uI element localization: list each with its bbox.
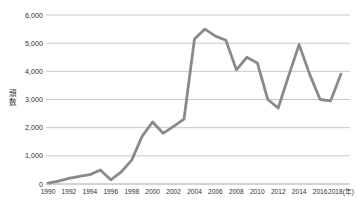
y-tick-label: 6,000 (25, 11, 43, 20)
line-chart: 頭数 01,0002,0003,0004,0005,0006,000199019… (0, 0, 357, 202)
x-tick-label: 2004 (187, 188, 202, 195)
y-tick-label: 2,000 (25, 123, 43, 132)
x-tick-label: 2000 (145, 188, 160, 195)
x-tick-label: 1998 (124, 188, 139, 195)
x-tick-label: 2008 (229, 188, 244, 195)
x-tick-label: 2010 (250, 188, 265, 195)
x-tick-label: 1990 (41, 188, 56, 195)
x-tick-label: 1994 (83, 188, 98, 195)
x-tick-label: 1996 (103, 188, 118, 195)
x-tick-label: 2006 (208, 188, 223, 195)
x-tick-label: 2002 (166, 188, 181, 195)
x-tick-label: 2016 (313, 188, 328, 195)
y-tick-label: 1,000 (25, 151, 43, 160)
data-series-line (48, 29, 341, 183)
plot-area: 01,0002,0003,0004,0005,0006,000199019921… (0, 0, 357, 202)
x-tick-label: 2012 (271, 188, 286, 195)
x-tick-label: 1992 (62, 188, 77, 195)
y-tick-label: 4,000 (25, 67, 43, 76)
y-tick-label: 3,000 (25, 95, 43, 104)
y-tick-label: 5,000 (25, 39, 43, 48)
x-tick-label: 2014 (292, 188, 307, 195)
x-tick-label: 2018(年) (328, 187, 354, 196)
